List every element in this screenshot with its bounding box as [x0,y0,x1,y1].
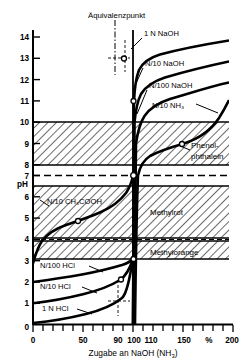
marker-1n-naoh-eq [131,99,136,104]
canvas-background [0,0,247,361]
equivalence-point-label: Äquivalenzpunkt [88,11,146,20]
y-tick-10: 10 [20,118,30,127]
y-tick-12: 12 [20,76,30,85]
band-label-phenolphthalein-line1: Phenol- [191,141,219,150]
x-axis-title-main: Zugabe an NaOH (NH [89,348,172,358]
y-tick-1: 1 [24,299,29,308]
marker-equivalence-ph7 [131,173,137,179]
y-tick-9: 9 [24,140,29,149]
label-1n-naoh: 1 NNaOH [144,29,179,38]
marker-n10-hcl-90pct [119,277,124,282]
band-methylorange [33,241,229,259]
label-n10-ch3cooh: N/10CH₃COOH [47,197,102,206]
marker-1n-naoh-90pct [122,56,127,61]
chart-svg: 14 13 12 11 10 9 8 7 6 5 4 3 2 1 0 pH 0 … [0,0,247,361]
x-axis-title: Zugabe an NaOH (NH3) [89,348,178,359]
x-tick-100: 100 [127,336,141,345]
y-axis-label: pH [17,180,28,189]
y-tick-0: 0 [24,323,29,332]
label-n100-naoh: N/100NaOH [149,81,192,90]
x-tick-150: 150 [177,336,191,345]
band-label-methylrot: Methylrot [150,208,184,217]
x-tick-90: 90 [113,336,123,345]
x-tick-50: 50 [78,336,88,345]
x-axis-title-end: ) [175,348,178,358]
x-tick-110: 110 [144,336,158,345]
x-tick-200: 200 [225,336,239,345]
label-n10-hcl: N/10HCl [40,282,71,291]
y-tick-3: 3 [24,257,29,266]
band-label-methylorange: Methylorange [150,248,199,257]
marker-acids-eq [131,257,136,262]
y-tick-2: 2 [24,278,29,287]
y-tick-6: 6 [24,193,29,202]
y-tick-13: 13 [20,54,30,63]
x-tick-0: 0 [31,336,36,345]
marker-ch3cooh-methylrot [76,219,81,224]
x-tick-percent: % [205,336,213,345]
y-tick-5: 5 [24,214,29,223]
y-tick-14: 14 [20,33,30,42]
label-n10-naoh: N/10NaOH [145,59,184,68]
y-tick-11: 11 [20,97,29,106]
band-label-phenolphthalein-line2: phthalein [191,152,223,161]
y-tick-8: 8 [24,161,29,170]
label-n100-hcl: N/100HCl [40,261,75,270]
titration-curve-figure: 14 13 12 11 10 9 8 7 6 5 4 3 2 1 0 pH 0 … [0,0,247,361]
x-axis-ticks [33,325,233,332]
y-tick-4: 4 [24,235,29,244]
band-methylrot [33,186,229,238]
label-1n-hcl: 1 NHCl [42,304,69,313]
